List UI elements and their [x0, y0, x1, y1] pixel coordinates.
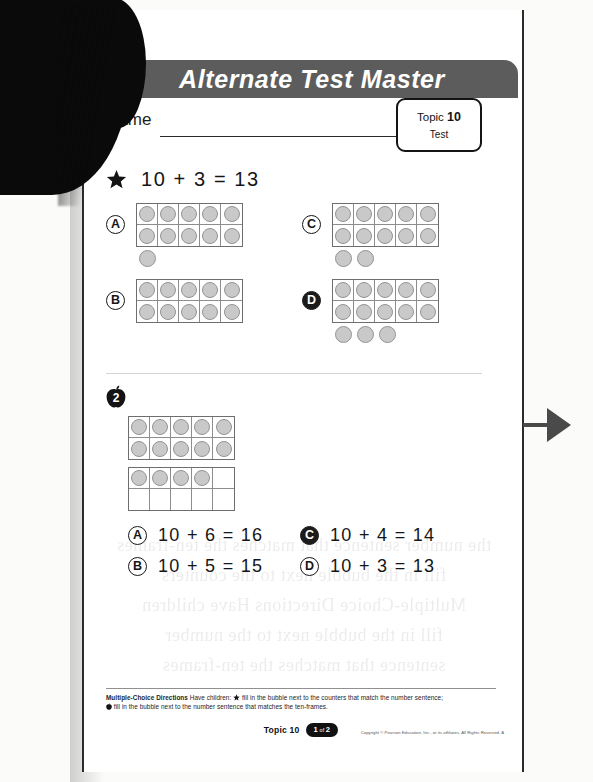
counter — [173, 419, 189, 435]
footer-directions-line-2: fill in the bubble next to the number se… — [114, 703, 328, 710]
option-d-counters — [332, 279, 439, 343]
counter — [160, 304, 176, 320]
loose-counters — [136, 250, 243, 267]
footer-directions-lead: Have children: — [190, 694, 232, 701]
counter — [160, 228, 176, 244]
option-c[interactable]: C 10 + 4 = 14 — [300, 525, 472, 546]
counter — [194, 470, 210, 486]
counter — [139, 228, 155, 244]
option-a[interactable]: A 10 + 6 = 16 — [128, 525, 300, 546]
torn-edge-fuzz-artifact — [58, 6, 116, 206]
counter — [139, 206, 155, 222]
option-a[interactable]: A — [106, 203, 302, 267]
option-d-bubble[interactable]: D — [302, 291, 321, 310]
worksheet-page: the number sentence that matches the ten… — [82, 10, 524, 772]
counter — [420, 206, 436, 222]
topic-box-topic: Topic 10 — [417, 110, 461, 124]
counter — [420, 228, 436, 244]
counter — [173, 470, 189, 486]
scanned-worksheet-image: the number sentence that matches the ten… — [0, 0, 593, 782]
counter — [356, 206, 372, 222]
counter — [181, 206, 197, 222]
option-a-bubble[interactable]: A — [106, 215, 125, 234]
page-indicator: 1 of 2 — [306, 723, 339, 737]
star-icon — [233, 694, 240, 701]
question-2-header: 2 — [106, 382, 506, 410]
counter — [335, 326, 352, 343]
question-1-header: 10 + 3 = 13 — [106, 165, 506, 193]
option-b-bubble[interactable]: B — [106, 291, 125, 310]
arrow-right-icon[interactable] — [523, 408, 571, 442]
footer-bottom: Topic 10 1 of 2 Copyright © Pearson Educ… — [106, 723, 496, 737]
option-c-bubble[interactable]: C — [302, 215, 321, 234]
counter — [398, 304, 414, 320]
counter — [152, 470, 168, 486]
option-b[interactable]: B 10 + 5 = 15 — [128, 556, 300, 577]
counter — [131, 470, 147, 486]
counter — [202, 304, 218, 320]
counter — [335, 304, 351, 320]
option-d[interactable]: D — [302, 279, 498, 343]
counter — [173, 441, 189, 457]
question-1-prompt: 10 + 3 = 13 — [141, 168, 260, 191]
counter — [357, 326, 374, 343]
counter — [202, 206, 218, 222]
ten-frame — [332, 279, 439, 323]
option-c[interactable]: C — [302, 203, 498, 267]
counter — [377, 228, 393, 244]
counter — [398, 228, 414, 244]
apple-icon: 2 — [106, 385, 126, 408]
option-d[interactable]: D 10 + 3 = 13 — [300, 556, 472, 577]
counter — [224, 206, 240, 222]
page-title: Alternate Test Master — [106, 65, 518, 94]
question-1: 10 + 3 = 13 A — [106, 165, 506, 343]
page-total: 2 — [326, 725, 330, 734]
arrow-head — [547, 408, 571, 442]
counter — [194, 419, 210, 435]
name-input-line[interactable] — [160, 136, 396, 137]
question-2: 2 — [106, 382, 506, 577]
page-of: of — [319, 727, 324, 733]
counter — [131, 441, 147, 457]
counter — [181, 228, 197, 244]
counter — [420, 282, 436, 298]
copyright-notice: Copyright © Pearson Education, Inc., or … — [361, 730, 504, 735]
counter — [224, 304, 240, 320]
counter — [160, 282, 176, 298]
header-band: Alternate Test Master — [106, 60, 518, 98]
footer-directions: Multiple-Choice Directions Have children… — [106, 693, 496, 712]
arrow-stem — [523, 423, 547, 427]
ten-frame-partial — [128, 467, 235, 511]
apple-icon — [106, 703, 112, 710]
counter — [139, 282, 155, 298]
counter — [356, 228, 372, 244]
option-b-counters — [136, 279, 243, 323]
option-d-bubble[interactable]: D — [300, 557, 319, 576]
counter — [181, 304, 197, 320]
option-b[interactable]: B — [106, 279, 302, 343]
option-c-text: 10 + 4 = 14 — [330, 525, 435, 546]
option-a-bubble[interactable]: A — [128, 526, 147, 545]
ten-frame — [332, 203, 439, 247]
footer-divider — [106, 688, 496, 689]
topic-box-type: Test — [430, 129, 448, 140]
question-2-options: A 10 + 6 = 16 C 10 + 4 = 14 B 10 + 5 = 1… — [106, 525, 506, 577]
option-c-bubble[interactable]: C — [300, 526, 319, 545]
counter — [224, 282, 240, 298]
loose-counters — [332, 250, 439, 267]
svg-text:2: 2 — [113, 391, 120, 405]
counter — [377, 304, 393, 320]
option-b-text: 10 + 5 = 15 — [158, 556, 263, 577]
counter — [335, 206, 351, 222]
option-a-text: 10 + 6 = 16 — [158, 525, 263, 546]
counter — [398, 206, 414, 222]
counter — [379, 326, 396, 343]
counter — [181, 282, 197, 298]
topic-box-prefix: Topic — [417, 111, 444, 123]
counter — [335, 282, 351, 298]
option-b-bubble[interactable]: B — [128, 557, 147, 576]
counter — [152, 419, 168, 435]
counter — [202, 282, 218, 298]
counter — [152, 441, 168, 457]
ten-frame — [136, 203, 243, 247]
